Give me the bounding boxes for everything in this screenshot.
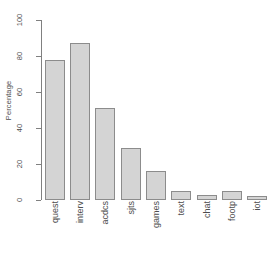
y-axis-tick-label-text: 0 [15,198,24,202]
x-axis-label-text: footp [226,201,238,221]
y-axis-tick [36,56,41,57]
x-axis-label-text: text [175,201,187,216]
y-axis-tick [36,164,41,165]
bar-footp [222,191,242,200]
y-axis-tick-label: 40 [8,117,30,139]
y-axis-tick-label-text: 20 [15,160,24,168]
x-axis-label-text: acdcs [99,201,111,225]
y-axis-tick [36,128,41,129]
bar-chat [197,195,217,200]
y-axis-tick-label: 100 [8,9,30,31]
y-axis-tick-label: 80 [8,45,30,67]
y-axis-tick [36,92,41,93]
bar-chart: Percentage 020406080100 questintervacdcs… [0,0,272,255]
bar-text [171,191,191,200]
x-axis-label-text: games [150,201,162,228]
bar-iot [247,196,267,200]
bar-sjts [121,148,141,200]
y-axis-tick [36,20,41,21]
y-axis-tick-label-text: 40 [15,124,24,132]
x-axis-label-text: chat [201,201,213,218]
bar-games [146,171,166,200]
y-axis-tick-label: 60 [8,81,30,103]
x-axis-label-iot: iot [251,201,272,213]
x-axis-label-text: interv [74,201,86,223]
x-axis-label-text: quest [49,201,61,223]
x-axis-label-text: iot [251,201,263,211]
y-axis-tick-label: 20 [8,153,30,175]
y-axis-tick-label: 0 [8,189,30,211]
y-axis-tick [36,200,41,201]
y-axis-tick-label-text: 100 [15,14,24,27]
x-axis-labels: questintervacdcssjtsgamestextchatfootpio… [42,201,270,255]
bar-interv [70,43,90,200]
x-axis-label-text: sjts [125,201,137,215]
plot-area [42,20,270,200]
y-axis-tick-label-text: 80 [15,52,24,60]
bar-acdcs [95,108,115,200]
y-axis-tick-label-text: 60 [15,88,24,96]
bar-quest [45,60,65,200]
